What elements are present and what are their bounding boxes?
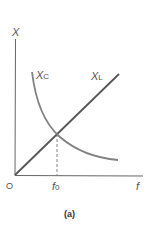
reactance-diagram [0,0,152,235]
xl-line [15,74,119,175]
x-axis [15,176,143,177]
y-axis-label: X [12,27,19,38]
xc-label: XC [36,70,49,81]
y-axis [15,39,16,176]
f0-label: f0 [52,181,60,192]
x-axis-label: f [136,181,139,192]
figure-caption: (a) [64,209,75,219]
xl-label: XL [91,71,103,82]
origin-label: O [6,182,13,191]
